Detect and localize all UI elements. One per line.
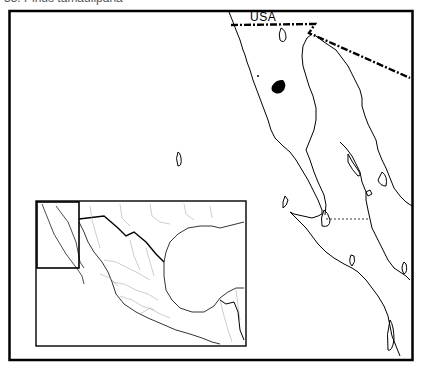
- locality-dot: [257, 75, 259, 77]
- inset-locator-map: [36, 201, 246, 346]
- international-border: [231, 24, 410, 78]
- map-canvas: USA: [0, 0, 421, 365]
- distribution-area-marker: [271, 80, 285, 94]
- usa-label: USA: [250, 10, 276, 24]
